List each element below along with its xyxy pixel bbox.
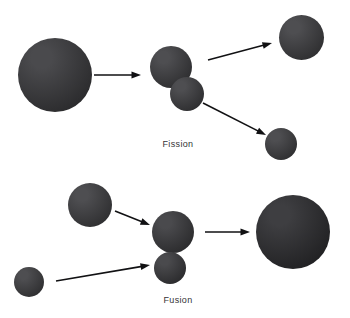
nuclear-reaction-diagram: Fission Fusion [0,0,350,318]
process-label-fission: Fission [163,139,194,149]
fusion-reactant-lower [14,267,44,297]
fusion-input-arrow-upper [115,211,150,225]
fission-intermediate-lower-lobe [170,77,204,111]
fusion-product-nucleus [256,195,330,269]
fission-split-arrow-down [203,103,266,135]
fusion-reactant-upper [68,183,112,227]
process-label-fusion: Fusion [163,295,192,305]
fusion-input-arrow-lower [56,263,150,281]
fission-parent-nucleus [18,38,92,112]
fission-split-arrow-up [208,42,272,60]
fusion-intermediate-lower-lobe [154,252,186,284]
fission-input-arrow [94,72,141,79]
fission-product-upper [279,15,324,60]
fusion-intermediate-upper-lobe [152,211,194,253]
fission-product-lower [265,128,297,160]
fusion-output-arrow [205,229,250,236]
